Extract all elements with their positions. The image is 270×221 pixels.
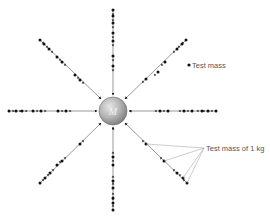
arrowhead-icon xyxy=(211,110,213,113)
test-mass-dot xyxy=(61,61,64,64)
field-line-bottom xyxy=(112,127,115,212)
field-line-lower-right xyxy=(125,123,189,185)
field-line-lower-left xyxy=(39,123,102,185)
test-mass-dot xyxy=(176,48,179,51)
test-mass-dot xyxy=(49,172,52,175)
test-mass-dot xyxy=(39,182,42,185)
arrowhead-icon xyxy=(37,110,39,113)
test-mass-dot xyxy=(112,15,115,18)
leader-line xyxy=(164,148,204,161)
gravitational-field-diagram: M Test mass Test mass of 1 kg xyxy=(0,0,270,221)
field-line-right xyxy=(129,110,218,113)
test-mass-dot xyxy=(112,32,115,35)
test-mass-dot xyxy=(167,110,170,113)
arrowhead-icon xyxy=(112,193,115,195)
test-mass-dot xyxy=(112,202,115,205)
leader-line xyxy=(183,148,204,178)
arrowhead-icon xyxy=(112,27,115,29)
test-mass-dot xyxy=(112,55,115,58)
arrowhead-icon xyxy=(112,205,115,207)
test-mass-dot xyxy=(57,110,60,113)
test-mass-legend: Test mass xyxy=(187,61,226,70)
test-mass-dot xyxy=(183,110,186,113)
test-mass-dot xyxy=(215,110,218,113)
field-line-top xyxy=(112,9,115,96)
arrowhead-icon xyxy=(13,110,15,113)
test-mass-dot xyxy=(61,160,64,163)
test-mass-dot xyxy=(32,110,35,113)
test-mass-dot xyxy=(145,78,148,81)
test-mass-dot xyxy=(65,110,68,113)
test-mass-dot-icon xyxy=(187,63,190,66)
test-mass-dot xyxy=(181,43,184,46)
test-mass-dot xyxy=(48,48,51,51)
test-mass-dot xyxy=(15,110,18,113)
test-mass-dot xyxy=(159,110,162,113)
arrowhead-icon xyxy=(112,60,115,62)
arrowhead-icon xyxy=(45,110,47,113)
test-mass-dot xyxy=(8,110,11,113)
test-mass-dot xyxy=(112,156,115,159)
arrowhead-icon xyxy=(112,37,115,39)
test-mass-dot xyxy=(21,110,24,113)
arrowhead-icon xyxy=(62,110,64,113)
test-mass-dot xyxy=(74,74,77,77)
arrowhead-icon xyxy=(179,110,181,113)
test-mass-dot xyxy=(176,172,179,175)
mass-label: M xyxy=(108,106,118,117)
arrowhead-icon xyxy=(112,183,115,185)
test-mass-dot xyxy=(44,177,47,180)
test-mass-dot xyxy=(185,39,188,42)
field-line-left xyxy=(8,110,98,113)
arrowhead-icon xyxy=(112,176,115,178)
test-mass-dot xyxy=(79,79,82,82)
leader-line xyxy=(146,144,204,148)
arrowhead-icon xyxy=(154,73,156,75)
test-mass-dot xyxy=(191,110,194,113)
arrowhead-icon xyxy=(155,110,157,113)
leader-line xyxy=(187,148,204,183)
arrowhead-icon xyxy=(112,70,115,72)
test-mass-dot xyxy=(207,110,210,113)
test-mass-1kg-label: Test mass of 1 kg xyxy=(206,144,264,153)
arrowhead-icon xyxy=(112,152,115,154)
test-mass-dot xyxy=(157,71,160,74)
test-mass-dot xyxy=(39,39,42,42)
test-mass-dot xyxy=(79,143,82,146)
arrowhead-icon xyxy=(70,110,72,113)
test-mass-dot xyxy=(43,43,46,46)
test-mass-dot xyxy=(112,22,115,25)
test-mass-dot xyxy=(56,164,59,167)
arrowhead-icon xyxy=(112,20,115,22)
arrowhead-icon xyxy=(187,110,189,113)
central-mass: M xyxy=(99,97,127,125)
arrowhead-icon xyxy=(112,160,115,162)
test-mass-dot xyxy=(112,164,115,167)
arrowhead-icon xyxy=(163,110,165,113)
field-line-upper-left xyxy=(39,39,102,100)
test-mass-dot xyxy=(56,56,59,59)
test-mass-dot xyxy=(112,180,115,183)
arrowhead-icon xyxy=(112,45,115,47)
test-mass-dot xyxy=(112,9,115,12)
field-line-upper-right xyxy=(125,39,188,100)
arrowhead-icon xyxy=(197,110,199,113)
test-mass-dot xyxy=(112,187,115,190)
test-mass-dot xyxy=(40,110,43,113)
test-mass-dot xyxy=(112,65,115,68)
test-mass-dot xyxy=(112,209,115,212)
leader-lines xyxy=(146,144,204,183)
test-mass-dot xyxy=(112,40,115,43)
test-mass-dot xyxy=(164,61,167,64)
arrowhead-icon xyxy=(26,110,28,113)
test-mass-label: Test mass xyxy=(192,61,226,70)
